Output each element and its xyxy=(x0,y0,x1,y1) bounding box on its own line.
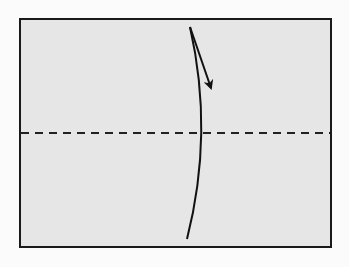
origami-diagram xyxy=(0,0,349,267)
diagram-canvas xyxy=(0,0,349,267)
